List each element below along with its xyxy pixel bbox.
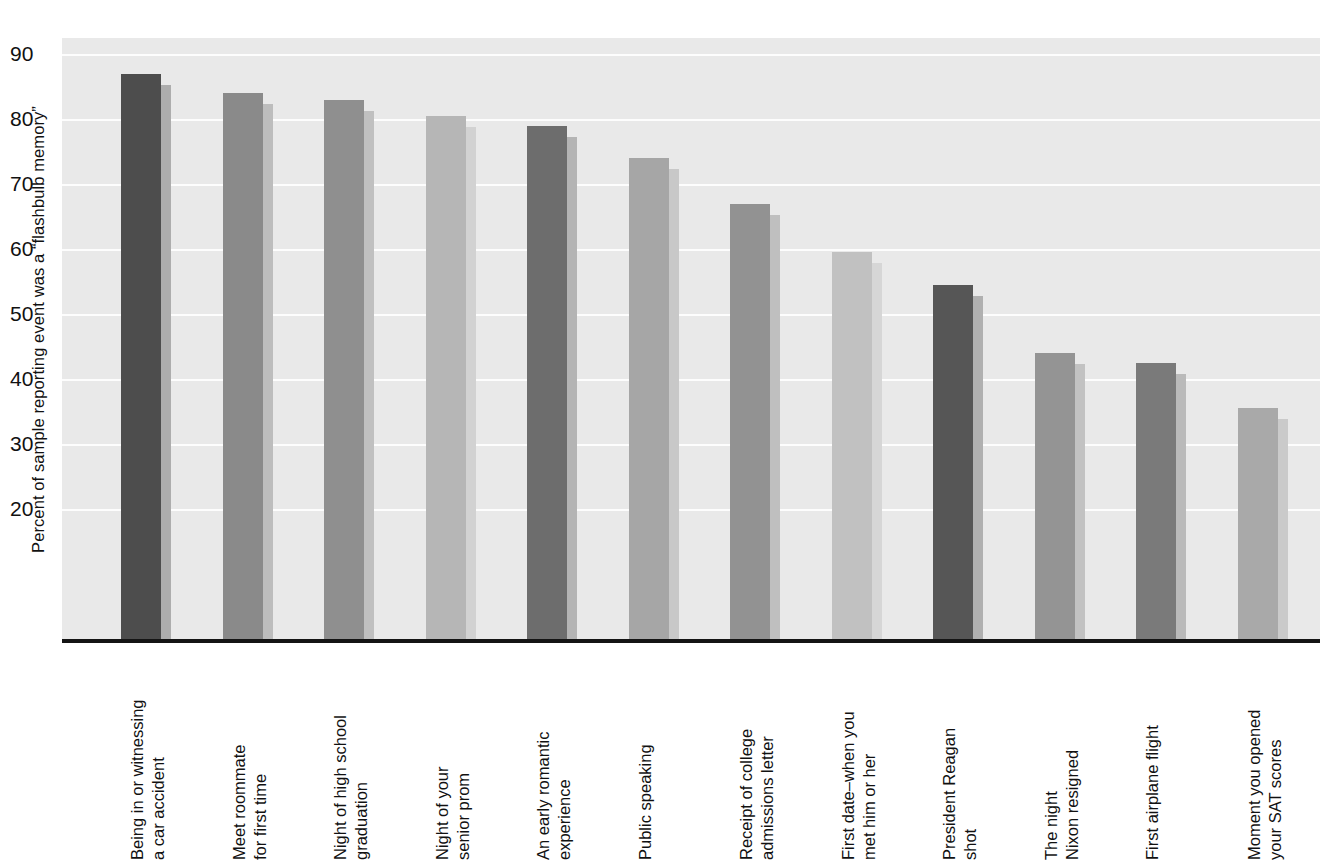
- bar-side: [1278, 419, 1288, 639]
- x-axis-label: Moment you openedyour SAT scores: [1244, 645, 1298, 860]
- bar-side: [567, 137, 577, 640]
- bar-face: [1238, 408, 1278, 639]
- x-axis-label-line1: President Reagan: [940, 728, 958, 860]
- bar-side: [466, 127, 476, 639]
- x-axis-label-line2: admissions letter: [757, 645, 778, 860]
- y-tick-label-60: 60: [10, 238, 58, 259]
- bar-face: [1035, 353, 1075, 639]
- gridline-90: [62, 54, 1320, 56]
- bar-face: [629, 158, 669, 639]
- y-tick-label-70: 70: [10, 173, 58, 194]
- x-axis-label-line1: Meet roommate: [230, 744, 248, 860]
- x-axis-label-line2: for first time: [250, 645, 271, 860]
- y-tick-label-90: 90: [10, 43, 58, 64]
- x-axis-label: Night of high schoolgraduation: [330, 645, 384, 860]
- bar-face: [223, 93, 263, 639]
- bar-side: [364, 111, 374, 640]
- x-axis-label: Public speaking: [635, 645, 689, 860]
- bar-side: [669, 169, 679, 639]
- y-tick-label-20: 20: [10, 498, 58, 519]
- x-axis-label-line2: met him or her: [859, 645, 880, 860]
- bar: [121, 74, 171, 640]
- bar-face: [527, 126, 567, 640]
- x-axis-label-line2: your SAT scores: [1265, 645, 1286, 860]
- x-axis-label: Being in or witnessinga car accident: [127, 645, 181, 860]
- bar: [426, 116, 476, 639]
- x-axis-label-line2: senior prom: [453, 645, 474, 860]
- x-axis-label: An early romanticexperience: [533, 645, 587, 860]
- x-axis-label-line1: Night of your: [433, 766, 451, 860]
- x-axis-label-line1: Being in or witnessing: [128, 699, 146, 860]
- y-tick-label-80: 80: [10, 108, 58, 129]
- x-axis-label: First date–when youmet him or her: [838, 645, 892, 860]
- bar-face: [730, 204, 770, 640]
- x-axis-label: First airplane flight: [1142, 645, 1196, 860]
- bar-side: [1176, 374, 1186, 639]
- x-axis-line: [62, 639, 1320, 643]
- x-axis-label-line1: An early romantic: [534, 732, 552, 860]
- plot-area: [62, 38, 1320, 639]
- y-tick-label-30: 30: [10, 433, 58, 454]
- x-axis-label: Meet roommatefor first time: [229, 645, 283, 860]
- bar-side: [770, 215, 780, 640]
- bar: [527, 126, 577, 640]
- x-axis-label-line1: First airplane flight: [1143, 725, 1161, 860]
- bar: [1238, 408, 1288, 639]
- y-axis-tick-labels: 9080706050403020: [0, 38, 58, 639]
- bar-side: [161, 85, 171, 640]
- bar: [629, 158, 679, 639]
- x-axis-label: Night of yoursenior prom: [432, 645, 486, 860]
- bar-side: [973, 296, 983, 639]
- bar: [1136, 363, 1186, 639]
- bar-side: [1075, 364, 1085, 639]
- x-axis-label: The nightNixon resigned: [1041, 645, 1095, 860]
- bar-face: [426, 116, 466, 639]
- x-axis-label-line1: The night: [1042, 791, 1060, 860]
- x-axis-label-line2: Nixon resigned: [1062, 645, 1083, 860]
- bar: [730, 204, 780, 640]
- x-axis-label-line1: Public speaking: [636, 744, 654, 860]
- bar-face: [933, 285, 973, 639]
- x-axis-label-line2: a car accident: [148, 645, 169, 860]
- x-axis-label: Receipt of collegeadmissions letter: [736, 645, 790, 860]
- bar: [223, 93, 273, 639]
- x-axis-category-labels: Being in or witnessinga car accidentMeet…: [62, 645, 1320, 866]
- x-axis-label-line1: Moment you opened: [1245, 710, 1263, 860]
- bar: [933, 285, 983, 639]
- bar-side: [263, 104, 273, 639]
- y-tick-label-40: 40: [10, 368, 58, 389]
- bar-face: [832, 252, 872, 639]
- bar-face: [1136, 363, 1176, 639]
- x-axis-label-line2: shot: [960, 645, 981, 860]
- x-axis-label-line2: graduation: [351, 645, 372, 860]
- bar: [324, 100, 374, 640]
- bar: [1035, 353, 1085, 639]
- bar: [832, 252, 882, 639]
- flashbulb-memory-bar-chart: Percent of sample reporting event was a …: [0, 0, 1332, 866]
- x-axis-label-line1: First date–when you: [839, 711, 857, 860]
- x-axis-label-line2: experience: [554, 645, 575, 860]
- bar-side: [872, 263, 882, 639]
- y-tick-label-50: 50: [10, 303, 58, 324]
- bar-face: [324, 100, 364, 640]
- x-axis-label-line1: Night of high school: [331, 715, 349, 860]
- x-axis-label-line1: Receipt of college: [737, 729, 755, 860]
- bar-face: [121, 74, 161, 640]
- x-axis-label: President Reaganshot: [939, 645, 993, 860]
